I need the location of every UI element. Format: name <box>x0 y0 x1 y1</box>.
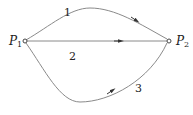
path-2-label: 2 <box>69 50 76 63</box>
path-diagram: P1 P2 1 2 3 <box>0 0 193 115</box>
path-3-label: 3 <box>135 82 142 95</box>
node-p2-label: P2 <box>175 34 189 49</box>
node-p1-label: P1 <box>8 34 22 49</box>
node-p1-circle <box>23 39 27 43</box>
path-1-label: 1 <box>64 6 71 19</box>
path-3-arrow-icon <box>107 90 113 94</box>
node-p2-circle <box>167 39 171 43</box>
path-1-curve <box>26 8 167 40</box>
path-3-curve <box>26 43 167 102</box>
